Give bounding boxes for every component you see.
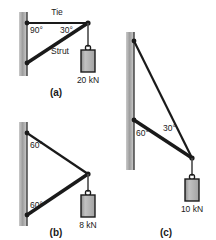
- angle-label-c-2: 30°: [163, 123, 176, 133]
- diagram-canvas: Tie 90° 30° Strut 20 kN (a): [0, 0, 216, 240]
- joint-c-top: [132, 39, 137, 44]
- caption-b: (b): [50, 227, 63, 238]
- angle-label-b-2: 60°: [30, 200, 43, 210]
- member-label-tie-a: Tie: [51, 7, 63, 17]
- joint-a-bottom: [25, 61, 30, 66]
- load-label-b: 8 kN: [79, 220, 96, 230]
- member-label-strut-a: Strut: [51, 46, 70, 56]
- joint-b-top: [25, 131, 30, 136]
- diagram-a: Tie 90° 30° Strut 20 kN (a): [19, 7, 99, 98]
- load-label-c: 10 kN: [181, 204, 203, 214]
- truss-figure: Tie 90° 30° Strut 20 kN (a): [0, 0, 216, 240]
- weight-block-a: [81, 50, 95, 72]
- caption-a: (a): [50, 87, 62, 98]
- angle-label-a-2: 30°: [60, 25, 73, 35]
- joint-c-middle: [132, 118, 137, 123]
- weight-block-c: [185, 179, 199, 201]
- joint-b-bottom: [25, 213, 30, 218]
- wall-b: [19, 122, 27, 226]
- joint-a-top: [25, 21, 30, 26]
- caption-c: (c): [160, 227, 172, 238]
- diagram-b: 60° 60° 8 kN (b): [19, 122, 97, 238]
- wall-c: [126, 32, 134, 170]
- weight-block-b: [81, 195, 95, 217]
- angle-label-b-1: 60°: [30, 140, 43, 150]
- angle-label-c-1: 60°: [136, 128, 149, 138]
- angle-label-a-1: 90°: [30, 25, 43, 35]
- load-label-a: 20 kN: [77, 75, 99, 85]
- diagram-c: 60° 30° 10 kN (c): [126, 32, 203, 238]
